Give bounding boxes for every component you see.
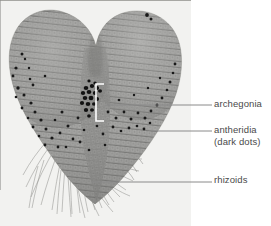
label-rhizoids-text: rhizoids (214, 174, 248, 186)
figure-root: archegonia antheridia (dark dots) rhizoi… (0, 0, 271, 226)
label-antheridia-subtext: (dark dots) (214, 136, 261, 148)
leader-lines-layer (0, 0, 271, 226)
label-antheridia: antheridia (dark dots) (214, 124, 261, 147)
label-archegonia: archegonia (214, 98, 262, 110)
label-antheridia-text: antheridia (214, 124, 261, 136)
label-rhizoids: rhizoids (214, 174, 248, 186)
label-archegonia-text: archegonia (214, 98, 262, 110)
